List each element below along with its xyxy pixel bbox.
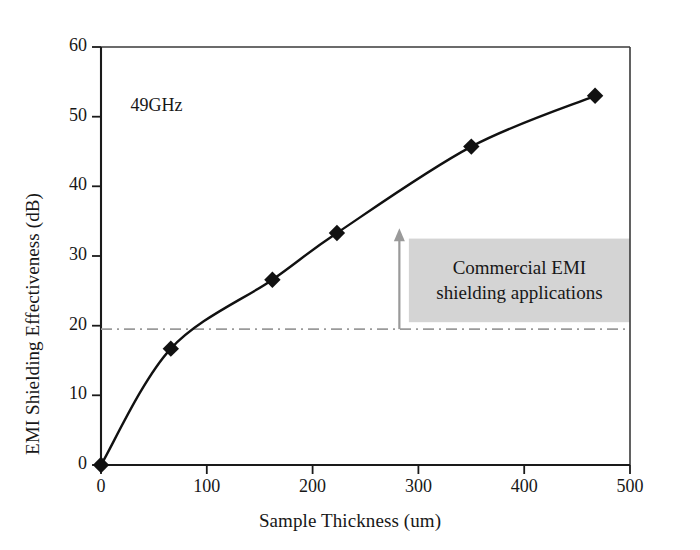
x-tick-label: 200	[273, 476, 353, 497]
x-axis-ticks	[101, 465, 630, 474]
x-tick-label: 500	[590, 476, 670, 497]
y-tick-label: 30	[69, 244, 87, 265]
y-tick-label: 40	[69, 174, 87, 195]
y-tick-label: 0	[78, 453, 87, 474]
x-tick-label: 400	[484, 476, 564, 497]
commercial-region-line-1: Commercial EMI	[453, 257, 587, 278]
chart-figure: EMI Shielding Effectiveness (dB) Sample …	[0, 0, 700, 550]
y-tick-label: 60	[69, 35, 87, 56]
y-axis-title: EMI Shielding Effectiveness (dB)	[22, 193, 44, 455]
x-tick-label: 0	[61, 476, 141, 497]
frequency-annotation-label: 49GHz	[131, 95, 183, 116]
y-tick-label: 10	[69, 383, 87, 404]
y-axis-ticks	[92, 47, 101, 465]
y-tick-label: 20	[69, 314, 87, 335]
commercial-region-label: Commercial EMI shielding applications	[409, 239, 630, 323]
x-tick-label: 300	[378, 476, 458, 497]
commercial-region-line-2: shielding applications	[436, 282, 602, 303]
x-tick-label: 100	[167, 476, 247, 497]
y-tick-label: 50	[69, 105, 87, 126]
commercial-region-text: Commercial EMI shielding applications	[436, 255, 602, 305]
x-axis-title: Sample Thickness (um)	[0, 510, 700, 532]
